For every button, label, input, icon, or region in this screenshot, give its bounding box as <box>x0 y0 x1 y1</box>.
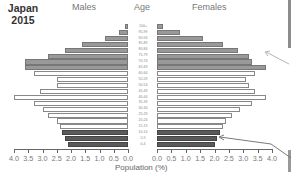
arrow-icon <box>265 51 289 64</box>
annotation-arrows <box>0 0 291 172</box>
arrow-icon <box>219 135 291 158</box>
